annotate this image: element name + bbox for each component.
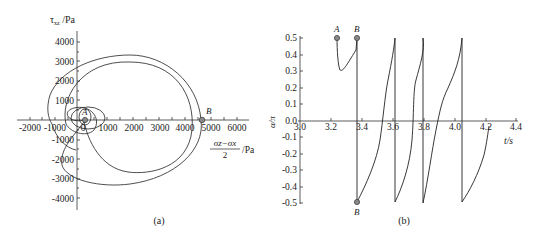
y-ticks-b xyxy=(300,38,303,203)
figure: A B -2000 -1000 0 1000 2000 3000 4000 50… xyxy=(0,0,536,241)
svg-text:-4000: -4000 xyxy=(52,194,74,204)
y-tick-labels-a: 4000 3000 2000 1000 -1000 -2000 -3000 -4… xyxy=(52,37,74,204)
caption-b: (b) xyxy=(398,215,410,227)
svg-text:4000: 4000 xyxy=(55,37,74,47)
svg-text:2000: 2000 xyxy=(55,76,74,86)
svg-text:-1000: -1000 xyxy=(44,123,66,133)
svg-text:6000: 6000 xyxy=(228,123,247,133)
point-a-marker xyxy=(82,117,87,122)
svg-text:/Pa: /Pa xyxy=(242,145,255,155)
x-tick-labels-a: -2000 -1000 0 1000 2000 3000 4000 5000 6… xyxy=(19,123,247,133)
svg-text:0.5: 0.5 xyxy=(285,33,297,43)
x-axis-label-a: σz−σx 2 /Pa xyxy=(210,138,255,160)
svg-text:-2000: -2000 xyxy=(19,123,41,133)
svg-text:3.4: 3.4 xyxy=(356,122,368,132)
svg-text:0: 0 xyxy=(81,123,86,133)
point-label-B-b-bottom: B xyxy=(354,207,360,217)
svg-text:4000: 4000 xyxy=(176,123,195,133)
svg-text:3000: 3000 xyxy=(55,57,74,67)
x-axis-label-b: t/s xyxy=(504,136,513,146)
svg-text:0.4: 0.4 xyxy=(285,50,297,60)
svg-text:3000: 3000 xyxy=(151,123,170,133)
svg-text:1000: 1000 xyxy=(55,96,74,106)
point-A-marker-b xyxy=(334,35,339,40)
svg-text:2: 2 xyxy=(223,150,228,160)
svg-text:-0.4: -0.4 xyxy=(282,182,297,192)
point-B-marker-b-top xyxy=(354,35,359,40)
svg-text:4.0: 4.0 xyxy=(449,122,461,132)
labels-a: A B -2000 -1000 0 1000 2000 3000 4000 50… xyxy=(19,14,255,227)
x-tick-labels-b: 3.0 3.2 3.4 3.6 3.8 4.0 4.2 4.4 xyxy=(294,122,522,132)
svg-text:σz−σx: σz−σx xyxy=(214,138,236,148)
point-label-B-b-top: B xyxy=(354,24,360,34)
caption-a: (a) xyxy=(153,215,164,227)
svg-text:5000: 5000 xyxy=(202,123,221,133)
svg-text:-1000: -1000 xyxy=(52,135,74,145)
svg-text:4.4: 4.4 xyxy=(510,122,522,132)
svg-text:3.2: 3.2 xyxy=(325,122,337,132)
chart-b xyxy=(298,35,518,204)
svg-text:-2000: -2000 xyxy=(52,155,74,165)
svg-text:0.1: 0.1 xyxy=(285,99,297,109)
svg-text:3.6: 3.6 xyxy=(387,122,399,132)
svg-text:4.2: 4.2 xyxy=(480,122,492,132)
x-ticks-a xyxy=(30,117,237,120)
point-B-marker-b-bottom xyxy=(354,199,359,204)
alpha-series-b xyxy=(337,38,489,203)
y-axis-label-b: α/π xyxy=(267,116,277,128)
y-axis-label-a: τxz /Pa xyxy=(50,14,76,26)
svg-text:-0.1: -0.1 xyxy=(282,132,297,142)
svg-text:0.2: 0.2 xyxy=(285,83,297,93)
svg-text:2000: 2000 xyxy=(125,123,144,133)
point-label-A: A xyxy=(81,107,88,117)
svg-text:-0.3: -0.3 xyxy=(282,165,297,175)
svg-text:-0.5: -0.5 xyxy=(282,198,297,208)
point-label-B-a: B xyxy=(206,106,212,116)
point-b-marker-a xyxy=(199,117,205,123)
svg-text:1000: 1000 xyxy=(99,123,118,133)
y-tick-labels-b: 0.5 0.4 0.3 0.2 0.1 0.0 -0.1 -0.2 -0.3 -… xyxy=(282,33,297,208)
svg-text:-3000: -3000 xyxy=(52,174,74,184)
svg-text:-0.2: -0.2 xyxy=(282,149,297,159)
svg-text:0.0: 0.0 xyxy=(285,116,297,126)
x-ticks-b xyxy=(331,118,516,121)
point-label-A-b: A xyxy=(333,24,340,34)
svg-text:3.8: 3.8 xyxy=(418,122,430,132)
svg-text:0.3: 0.3 xyxy=(285,66,297,76)
